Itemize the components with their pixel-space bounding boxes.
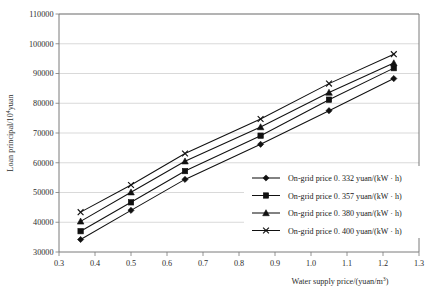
x-tick-label: 1.2 bbox=[378, 259, 388, 268]
chart-container: 3000040000500006000070000800009000010000… bbox=[0, 0, 435, 294]
x-tick-label: 0.5 bbox=[126, 259, 136, 268]
y-tick-label: 60000 bbox=[33, 159, 53, 168]
marker-square bbox=[391, 65, 396, 70]
y-tick-label: 110000 bbox=[29, 10, 53, 19]
y-tick-label: 100000 bbox=[29, 40, 54, 49]
y-tick-label: 50000 bbox=[33, 188, 53, 197]
y-tick-label: 30000 bbox=[33, 248, 53, 257]
marker-square bbox=[78, 228, 83, 233]
x-axis-ticks: 0.30.40.50.60.70.80.91.01.11.21.3 bbox=[54, 252, 424, 268]
x-tick-label: 1.3 bbox=[414, 259, 424, 268]
x-tick-label: 0.9 bbox=[270, 259, 280, 268]
x-axis-title-text: Water supply price/(yuan/m3) bbox=[292, 276, 389, 286]
y-axis-ticks: 3000040000500006000070000800009000010000… bbox=[29, 10, 59, 257]
x-tick-label: 0.3 bbox=[54, 259, 64, 268]
x-tick-label: 0.6 bbox=[162, 259, 172, 268]
y-axis-title-text: Loan principal/104yuan bbox=[5, 94, 15, 171]
legend-label: On-grid price 0. 400 yuan/(kW · h) bbox=[288, 227, 402, 236]
legend-label: On-grid price 0. 332 yuan/(kW · h) bbox=[288, 174, 402, 183]
y-tick-label: 70000 bbox=[33, 129, 53, 138]
y-tick-label: 40000 bbox=[33, 218, 53, 227]
y-axis-title: Loan principal/104yuan bbox=[5, 94, 15, 171]
legend-label: On-grid price 0. 357 yuan/(kW · h) bbox=[288, 192, 402, 201]
y-tick-label: 90000 bbox=[33, 69, 53, 78]
marker-square bbox=[258, 133, 263, 138]
x-tick-label: 0.7 bbox=[198, 259, 208, 268]
y-tick-label: 80000 bbox=[33, 99, 53, 108]
legend: On-grid price 0. 332 yuan/(kW · h)On-gri… bbox=[244, 166, 422, 238]
marker-square bbox=[182, 168, 187, 173]
x-tick-label: 1.0 bbox=[306, 259, 316, 268]
x-tick-label: 0.4 bbox=[90, 259, 100, 268]
x-tick-label: 0.8 bbox=[234, 259, 244, 268]
x-tick-label: 1.1 bbox=[342, 259, 352, 268]
legend-label: On-grid price 0. 380 yuan/(kW · h) bbox=[288, 209, 402, 218]
marker-square bbox=[128, 200, 133, 205]
line-chart: 3000040000500006000070000800009000010000… bbox=[0, 0, 435, 294]
marker-square bbox=[326, 97, 331, 102]
marker-square bbox=[263, 193, 268, 198]
